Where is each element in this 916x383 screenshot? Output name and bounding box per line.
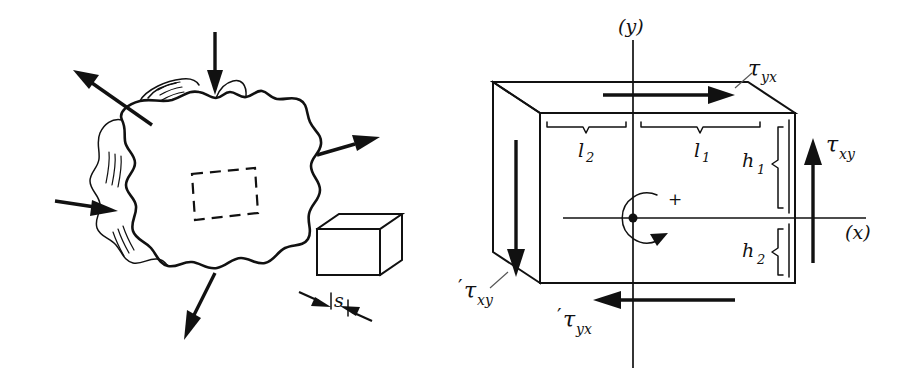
svg-text:xy: xy — [839, 146, 856, 162]
svg-text:2: 2 — [756, 252, 765, 267]
svg-text:l: l — [578, 139, 584, 161]
svg-text:1: 1 — [702, 150, 710, 165]
thickness-label-s: s — [334, 289, 344, 311]
diagram-canvas: s (y) (x) — [0, 0, 916, 383]
axis-x-label: (x) — [845, 221, 871, 243]
svg-text:τ: τ — [563, 307, 576, 332]
axis-y-label: (y) — [618, 15, 644, 37]
svg-text:2: 2 — [585, 150, 594, 165]
svg-text:′: ′ — [557, 304, 562, 328]
body-outline — [121, 91, 321, 268]
figure-root: s (y) (x) — [0, 0, 916, 383]
svg-text:yx: yx — [575, 321, 592, 337]
svg-text:l: l — [694, 139, 700, 161]
svg-text:τ: τ — [826, 132, 839, 157]
svg-text:h: h — [742, 239, 754, 261]
svg-text:τ: τ — [464, 278, 477, 303]
svg-text:τ: τ — [748, 56, 761, 81]
svg-text:xy: xy — [477, 292, 494, 308]
svg-text:1: 1 — [757, 162, 765, 177]
svg-text:′: ′ — [458, 275, 463, 299]
svg-text:yx: yx — [760, 69, 777, 85]
rotation-sign-label: + — [668, 189, 682, 209]
origin-dot — [629, 214, 638, 223]
svg-text:h: h — [742, 149, 754, 171]
